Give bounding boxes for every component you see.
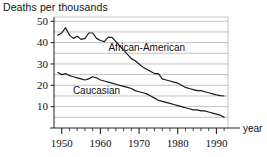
data-series-group bbox=[58, 28, 224, 118]
chart-container: Deaths per thousands 1020304050 19501960… bbox=[0, 0, 267, 157]
y-axis-tick-label: 30 bbox=[37, 58, 49, 70]
x-axis-name-group: year bbox=[243, 123, 263, 134]
x-axis-tick-label: 1980 bbox=[167, 137, 190, 149]
y-axis-tick-label: 50 bbox=[37, 15, 49, 27]
x-axis-tick-label: 1970 bbox=[128, 137, 151, 149]
series-annotation-label: Caucasian bbox=[73, 85, 120, 96]
series-annotation-label: African-American bbox=[108, 42, 185, 53]
x-axis-tick-label: 1990 bbox=[205, 137, 228, 149]
x-axis-tick-label: 1960 bbox=[89, 137, 112, 149]
x-axis-tick-label: 1950 bbox=[51, 137, 74, 149]
x-axis-tick-labels: 19501960197019801990 bbox=[51, 137, 228, 149]
chart-plot-area: 1020304050 19501960197019801990 African-… bbox=[0, 0, 267, 157]
y-axis-tick-label: 20 bbox=[37, 79, 49, 91]
y-axis-ticks-group bbox=[51, 21, 55, 106]
x-axis-name: year bbox=[243, 123, 263, 134]
x-axis-ticks-group bbox=[62, 128, 224, 134]
y-axis-tick-labels: 1020304050 bbox=[37, 15, 49, 112]
y-axis-tick-label: 10 bbox=[37, 100, 49, 112]
gridlines-group bbox=[54, 21, 228, 117]
y-axis-tick-label: 40 bbox=[37, 36, 49, 48]
